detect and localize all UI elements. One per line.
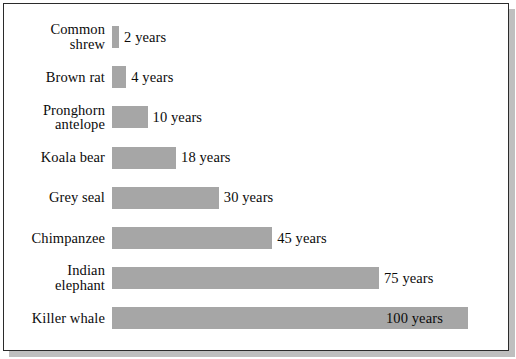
bar-track: 2 years xyxy=(112,20,508,54)
bar-row: Common shrew2 years xyxy=(4,20,508,54)
category-label: Indian elephant xyxy=(4,263,112,293)
bar xyxy=(112,106,148,128)
bar-track: 18 years xyxy=(112,141,508,175)
bar-row: Pronghorn antelope10 years xyxy=(4,100,508,134)
category-label: Grey seal xyxy=(4,190,112,205)
bar-value-label: 4 years xyxy=(131,69,173,86)
bar xyxy=(112,66,126,88)
bar-row: Chimpanzee45 years xyxy=(4,221,508,255)
bar-value-label: 2 years xyxy=(124,29,166,46)
bar-track: 75 years xyxy=(112,261,508,295)
bar-track: 30 years xyxy=(112,181,508,215)
bar-value-label: 75 years xyxy=(384,270,434,287)
chart-figure: Common shrew2 yearsBrown rat4 yearsProng… xyxy=(0,0,516,359)
bar-row: Brown rat4 years xyxy=(4,60,508,94)
bar-chart-plot-area: Common shrew2 yearsBrown rat4 yearsProng… xyxy=(4,4,508,350)
category-label: Common shrew xyxy=(4,22,112,52)
bar-row: Koala bear18 years xyxy=(4,141,508,175)
bar xyxy=(112,227,272,249)
bar-track: 10 years xyxy=(112,100,508,134)
category-label: Chimpanzee xyxy=(4,231,112,246)
category-label: Pronghorn antelope xyxy=(4,103,112,133)
bar-row: Indian elephant75 years xyxy=(4,261,508,295)
bar-value-label: 30 years xyxy=(224,189,274,206)
bar xyxy=(112,267,379,289)
bar-track: 4 years xyxy=(112,60,508,94)
category-label: Killer whale xyxy=(4,311,112,326)
bar-value-label: 45 years xyxy=(277,230,327,247)
bar-value-label: 18 years xyxy=(181,149,231,166)
category-label: Koala bear xyxy=(4,150,112,165)
bar-value-label: 10 years xyxy=(153,109,203,126)
bar xyxy=(112,187,219,209)
bar xyxy=(112,26,119,48)
category-label: Brown rat xyxy=(4,70,112,85)
bar xyxy=(112,147,176,169)
bar-row: Killer whale100 years xyxy=(4,301,508,335)
bar-track: 100 years xyxy=(112,301,508,335)
bar-value-label: 100 years xyxy=(386,310,443,327)
bar-row: Grey seal30 years xyxy=(4,181,508,215)
bar-track: 45 years xyxy=(112,221,508,255)
